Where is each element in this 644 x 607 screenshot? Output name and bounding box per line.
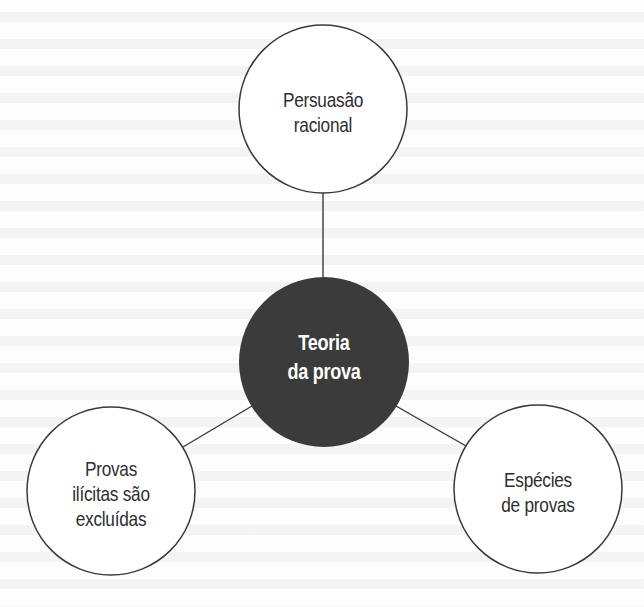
node-label-especies-de-provas: Espécies de provas xyxy=(472,467,603,517)
node-line: Persuasão xyxy=(257,87,388,112)
node-line: excluídas xyxy=(45,506,176,531)
node-line: racional xyxy=(257,112,388,137)
node-line: Teoria xyxy=(258,328,389,357)
node-line: Espécies xyxy=(472,467,603,492)
edge-center-to-bottom-right xyxy=(396,406,466,446)
node-label-teoria-da-prova: Teoria da prova xyxy=(258,328,389,386)
node-line: da prova xyxy=(258,357,389,386)
node-label-provas-ilicitas: Provas ilícitas são excluídas xyxy=(45,456,176,531)
node-line: Provas xyxy=(45,456,176,481)
node-line: ilícitas são xyxy=(45,481,176,506)
edge-center-to-bottom-left xyxy=(183,406,252,447)
node-label-persuasao-racional: Persuasão racional xyxy=(257,87,388,137)
node-line: de provas xyxy=(472,492,603,517)
